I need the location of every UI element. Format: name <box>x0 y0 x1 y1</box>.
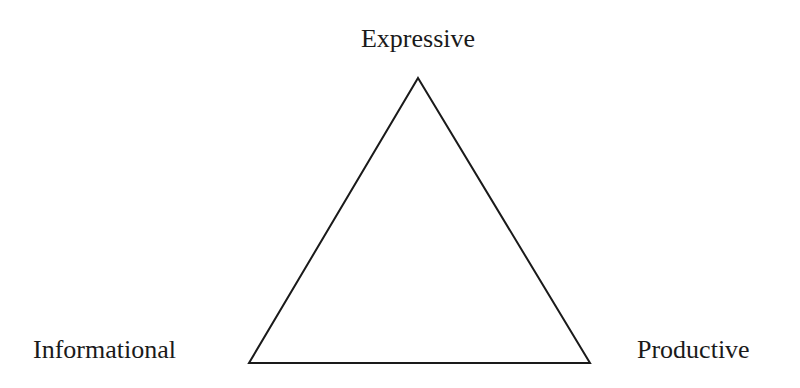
triangle-diagram <box>0 0 800 388</box>
vertex-label-productive: Productive <box>637 337 750 363</box>
vertex-label-informational: Informational <box>33 337 176 363</box>
diagram-canvas: Expressive Informational Productive <box>0 0 800 388</box>
triangle-shape <box>249 78 590 363</box>
vertex-label-expressive: Expressive <box>361 26 475 52</box>
